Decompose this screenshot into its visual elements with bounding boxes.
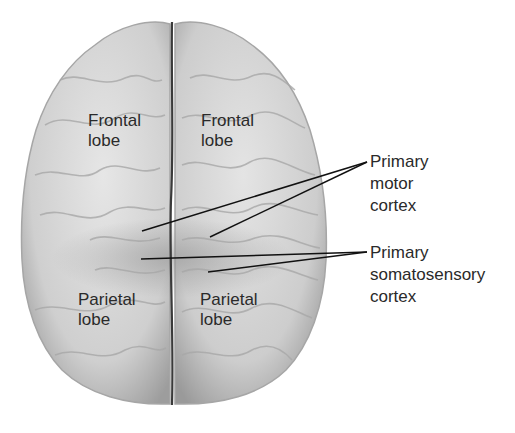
label-parietal-lobe-right: Parietal lobe [200,290,258,330]
right-hemisphere [175,22,326,404]
label-parietal-lobe-left: Parietal lobe [78,290,136,330]
callout-primary-somatosensory-cortex: Primary somatosensory cortex [370,242,485,308]
label-frontal-lobe-right: Frontal lobe [201,111,254,151]
callout-primary-motor-cortex: Primary motor cortex [370,151,429,217]
longitudinal-fissure [171,22,173,405]
label-frontal-lobe-left: Frontal lobe [88,111,141,151]
brain-diagram [0,0,515,433]
